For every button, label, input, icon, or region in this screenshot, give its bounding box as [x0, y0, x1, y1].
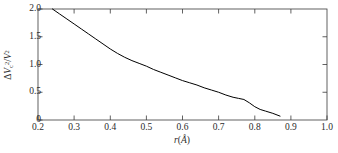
y-axis-title: ΔVc2/V2 [4, 50, 14, 80]
x-axis-title: r(Å) [174, 136, 190, 146]
x-tick-label: 0.8 [249, 123, 261, 133]
data-series-line [52, 9, 280, 116]
x-tick-label: 0.6 [177, 123, 189, 133]
x-tick-label: 0.9 [285, 123, 297, 133]
x-tick-label: 0.3 [68, 123, 80, 133]
x-axis-ticks-top [74, 9, 291, 14]
y-tick-label: 1.5 [29, 32, 41, 42]
y-axis-title-superscript: 2 [3, 62, 10, 65]
x-tick-label: 0.7 [213, 123, 225, 133]
x-axis-title-close: ) [187, 135, 190, 145]
y-axis-title-subscript: c [7, 65, 14, 68]
y-tick-label: 0 [36, 115, 41, 125]
x-tick-label: 0.5 [140, 123, 152, 133]
x-axis-ticks [38, 116, 327, 121]
y-axis-title-slash: / [3, 59, 13, 62]
figure-container: 0.2 0.3 0.4 0.5 0.6 0.7 0.8 0.9 1.0 0 0.… [0, 0, 338, 153]
y-axis-title-var: V [3, 68, 13, 74]
y-axis-title-var2: V [3, 53, 13, 59]
y-axis-ticks-right [323, 37, 328, 93]
y-tick-label: 1.0 [29, 60, 41, 70]
x-tick-label: 0.4 [104, 123, 116, 133]
x-tick-label: 1.0 [321, 123, 333, 133]
y-tick-label: 0.5 [29, 88, 41, 98]
y-axis-title-delta: Δ [3, 74, 13, 80]
plot-frame [38, 9, 327, 120]
y-tick-label: 2.0 [29, 4, 41, 14]
y-axis-title-superscript2: 2 [3, 50, 10, 53]
